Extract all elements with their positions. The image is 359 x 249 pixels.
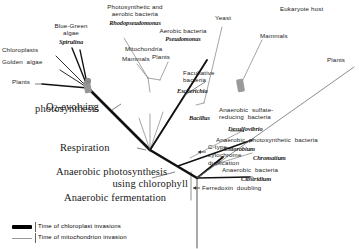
label-pseudomonas: Pseudomonas [148, 36, 218, 43]
legend-label-mitochondrion: Time of mitochondrion invasion [38, 234, 127, 240]
label-facultative-bacteria: Facultative bacteria [183, 70, 215, 83]
label-eukaryote-host: Eukaryote host [280, 6, 323, 13]
legend-row-mitochondrion: Time of mitochondrion invasion [8, 233, 198, 244]
branch-mito-plants [160, 62, 168, 80]
label-aerobic-bacteria: Aerobic bacteria [148, 28, 218, 35]
legend-swatch-chloroplast-icon [12, 225, 32, 229]
label-bacillus: Bacillus [189, 115, 210, 122]
leader-respiration-stage [137, 148, 146, 150]
label-host-mammals: Mammals [260, 33, 288, 40]
label-chloroplasts: Chloroplasts [2, 47, 38, 54]
branch-mito-stem [148, 78, 150, 92]
label-c-type-cytochrome-duplication: C-type cytochrome duplication [208, 143, 241, 166]
pointer-arrow-ferredoxin [193, 186, 196, 189]
label-respiration: Respiration [60, 142, 110, 153]
label-desulfovibrio: Desulfovibrio [228, 126, 263, 133]
mitochondrion-invasion-marker [236, 78, 245, 92]
label-ferredoxin-doubling: Ferredoxin doubling [202, 185, 261, 192]
label-chloroplast-plants: Plants [12, 79, 30, 86]
label-yeast: Yeast [215, 15, 231, 22]
branch-mito-mammals [137, 64, 148, 78]
label-o2-photosynthesis-line2: photosynthesis [18, 103, 116, 114]
label-using-chlorophyll: using chlorophyll [56, 178, 188, 189]
branch-chloroplast-plants [42, 84, 88, 88]
label-spirulina: Spirulina [40, 39, 102, 46]
label-chromatium: Chromatium [253, 155, 286, 162]
legend-swatch-mitochondrion-icon [12, 238, 32, 239]
branch-host-mammals [240, 40, 262, 86]
legend-row-chloroplast: Time of chloroplast invasions [8, 222, 198, 233]
label-host-plants: Plants [327, 57, 345, 64]
label-photosynthetic-aerobic-bacteria: Photosynthetic and aerobic bacteria [88, 4, 182, 17]
label-rhodopseudomonas: Rhodopseudomonas [88, 20, 182, 27]
label-anaerobic-fermentation: Anaerobic fermentation [64, 192, 166, 203]
evolutionary-tree-figure: Photosynthetic and aerobic bacteria Rhod… [0, 0, 359, 249]
legend-divider-mitochondrion [35, 233, 36, 243]
legend-divider-chloroplast [35, 222, 36, 232]
label-mitochondria: Mitochondria [125, 46, 162, 53]
legend: Time of chloroplast invasions Time of mi… [8, 222, 198, 244]
label-anaerobic-sulfate-reducing: Anaerobic sulfate- reducing bacteria [219, 107, 273, 120]
label-golden-algae: Golden algae [2, 59, 42, 66]
label-anaerobic-bacteria: Anaerobic bacteria [222, 167, 278, 174]
label-clostridium: Clostridium [241, 176, 271, 183]
label-anaerobic-photosynthesis: Anaerobic photosynthesis [56, 166, 167, 177]
label-blue-green-algae: Blue-Green algae [40, 23, 102, 36]
legend-label-chloroplast: Time of chloroplast invasions [38, 223, 121, 229]
branch-mito-node-link [148, 78, 160, 80]
branch-host-node-link [196, 103, 204, 105]
label-mitochondria-plants: Plants [152, 54, 170, 61]
label-escherichia: Escherichia [177, 88, 208, 95]
label-mitochondria-mammals: Mammals [122, 56, 150, 63]
